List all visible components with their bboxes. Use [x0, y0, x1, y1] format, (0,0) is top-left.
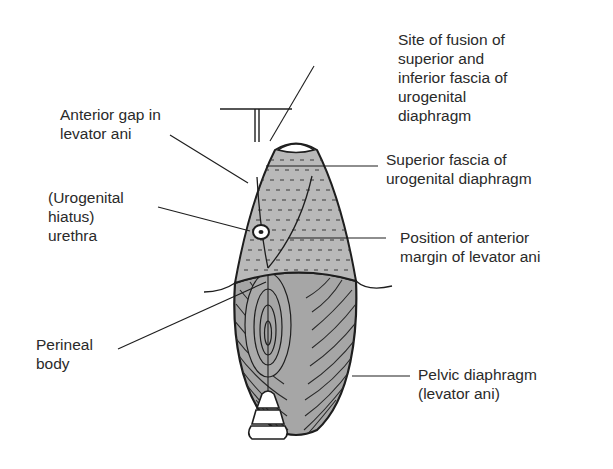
urethra-opening: [253, 225, 269, 239]
label-anterior-margin: Position of anterior margin of levator a…: [400, 228, 540, 266]
pelvic-diaphragm-region: [234, 268, 358, 439]
label-perineal-body: Perineal body: [36, 335, 93, 373]
label-urethra: (Urogenital hiatus) urethra: [48, 188, 124, 245]
label-pelvic-diaphragm: Pelvic diaphragm (levator ani): [418, 365, 537, 403]
label-site-of-fusion: Site of fusion of superior and inferior …: [398, 30, 507, 125]
label-anterior-gap: Anterior gap in levator ani: [60, 105, 161, 143]
pubic-symphysis-marker: [220, 109, 292, 142]
label-superior-fascia: Superior fascia of urogenital diaphragm: [386, 150, 532, 188]
